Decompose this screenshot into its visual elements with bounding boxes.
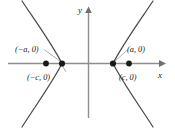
x-axis-label: x [157, 70, 162, 80]
hyperbola-figure: (−a, 0) (−c, 0) (a, 0) (c, 0) y x [0, 0, 175, 128]
hyperbola-canvas: (−a, 0) (−c, 0) (a, 0) (c, 0) y x [0, 0, 175, 128]
right-vertex-point [110, 60, 116, 66]
right-focus-label: (c, 0) [119, 73, 137, 82]
x-axis [8, 60, 166, 67]
y-axis-label: y [77, 5, 82, 15]
left-vertex-label: (−a, 0) [15, 45, 39, 54]
left-focus-point [43, 61, 49, 67]
left-vertex-point [59, 60, 65, 66]
right-focus-point [126, 61, 132, 67]
right-vertex-label: (a, 0) [127, 45, 145, 54]
y-axis [85, 7, 92, 119]
y-axis-arrowhead [85, 7, 92, 14]
x-axis-arrowhead [159, 60, 166, 67]
left-focus-label: (−c, 0) [27, 73, 50, 82]
leader-line-right-vertex [115, 50, 129, 62]
